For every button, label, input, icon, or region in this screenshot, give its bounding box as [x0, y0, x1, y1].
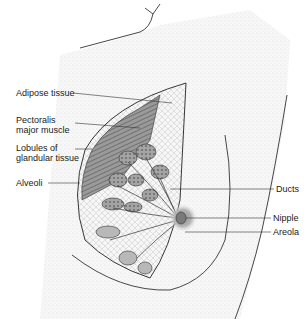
- label-alveoli-text: Alveoli: [16, 178, 43, 188]
- label-pectoralis-major: Pectoralis major muscle: [16, 115, 70, 135]
- label-areola-text: Areola: [273, 227, 299, 237]
- label-adipose-text: Adipose tissue: [16, 88, 75, 98]
- label-ducts-text: Ducts: [276, 184, 299, 194]
- label-lobules: Lobules of glandular tissue: [16, 143, 79, 163]
- label-nipple-text: Nipple: [273, 213, 299, 223]
- label-pectoralis-line1: Pectoralis: [16, 115, 70, 125]
- label-lobules-line2: glandular tissue: [16, 153, 79, 163]
- breast-anatomy-diagram: Adipose tissue Pectoralis major muscle L…: [0, 0, 304, 319]
- label-alveoli: Alveoli: [16, 178, 43, 188]
- label-pectoralis-line2: major muscle: [16, 125, 70, 135]
- label-ducts: Ducts: [276, 184, 299, 194]
- label-adipose-tissue: Adipose tissue: [16, 88, 75, 98]
- label-nipple: Nipple: [273, 213, 299, 223]
- label-lobules-line1: Lobules of: [16, 143, 79, 153]
- label-areola: Areola: [273, 227, 299, 237]
